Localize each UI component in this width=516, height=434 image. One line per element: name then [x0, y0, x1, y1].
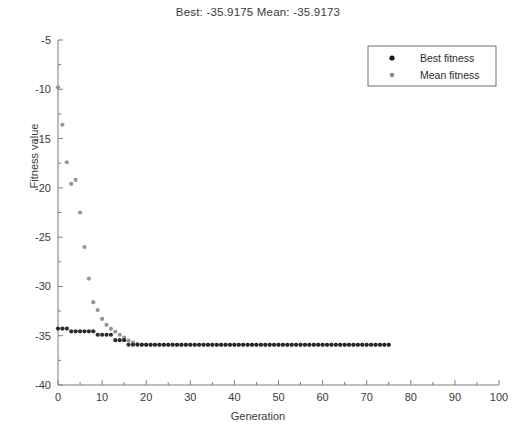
data-point	[91, 329, 95, 333]
data-point	[56, 327, 60, 331]
data-point	[87, 276, 91, 280]
data-points	[56, 85, 391, 347]
data-point	[96, 308, 100, 312]
data-point	[325, 343, 329, 347]
data-point	[65, 327, 69, 331]
data-point	[78, 329, 82, 333]
data-point	[272, 343, 276, 347]
data-point	[321, 343, 325, 347]
x-tick-label: 90	[449, 391, 461, 403]
data-point	[91, 300, 95, 304]
data-point	[113, 338, 117, 342]
data-point	[82, 245, 86, 249]
legend[interactable]: Best fitnessMean fitness	[368, 46, 496, 86]
data-point	[65, 160, 69, 164]
data-point	[74, 178, 78, 182]
data-point	[219, 343, 223, 347]
data-point	[118, 338, 122, 342]
data-point	[118, 333, 122, 337]
data-point	[96, 333, 100, 337]
data-point	[338, 343, 342, 347]
fitness-plot: Best: -35.9175 Mean: -35.9173 Fitness va…	[0, 0, 516, 434]
data-point	[157, 343, 161, 347]
y-tick-label: -25	[35, 231, 51, 243]
data-point	[365, 343, 369, 347]
data-point	[250, 343, 254, 347]
data-point	[206, 343, 210, 347]
data-point	[87, 329, 91, 333]
x-tick-label: 40	[228, 391, 240, 403]
series-best-fitness	[56, 327, 391, 347]
legend-marker-mean	[390, 73, 394, 77]
y-tick-label: -10	[35, 83, 51, 95]
data-point	[126, 343, 130, 347]
data-point	[210, 343, 214, 347]
data-point	[369, 343, 373, 347]
data-point	[246, 343, 250, 347]
data-point	[171, 343, 175, 347]
data-point	[312, 343, 316, 347]
data-point	[294, 343, 298, 347]
x-tick-label: 60	[316, 391, 328, 403]
data-point	[144, 343, 148, 347]
data-point	[104, 323, 108, 327]
series-mean-fitness	[56, 85, 391, 347]
data-point	[382, 343, 386, 347]
data-point	[56, 85, 60, 89]
data-point	[126, 339, 130, 343]
data-point	[298, 343, 302, 347]
data-point	[193, 343, 197, 347]
data-point	[223, 343, 227, 347]
data-point	[303, 343, 307, 347]
data-point	[228, 343, 232, 347]
data-point	[135, 343, 139, 347]
legend-marker-best	[389, 55, 394, 60]
data-point	[175, 343, 179, 347]
data-point	[356, 343, 360, 347]
data-point	[188, 343, 192, 347]
y-tick-label: -35	[35, 330, 51, 342]
data-point	[162, 343, 166, 347]
y-tick-label: -15	[35, 133, 51, 145]
data-point	[179, 343, 183, 347]
x-tick-label: 50	[272, 391, 284, 403]
data-point	[82, 329, 86, 333]
data-point	[140, 343, 144, 347]
y-tick-label: -20	[35, 182, 51, 194]
data-point	[153, 343, 157, 347]
data-point	[351, 343, 355, 347]
x-tick-label: 70	[361, 391, 373, 403]
y-tick-label: -30	[35, 280, 51, 292]
data-point	[166, 343, 170, 347]
data-point	[373, 343, 377, 347]
data-point	[360, 343, 364, 347]
data-point	[122, 338, 126, 342]
x-tick-label: 20	[140, 391, 152, 403]
x-tick-label: 10	[96, 391, 108, 403]
legend-label: Best fitness	[420, 52, 474, 64]
data-point	[100, 333, 104, 337]
data-point	[60, 327, 64, 331]
data-point	[316, 343, 320, 347]
data-point	[69, 182, 73, 186]
axes: -40-35-30-25-20-15-10-501020304050607080…	[35, 34, 508, 403]
data-point	[343, 343, 347, 347]
data-point	[184, 343, 188, 347]
data-point	[281, 343, 285, 347]
data-point	[276, 343, 280, 347]
data-point	[215, 343, 219, 347]
data-point	[329, 343, 333, 347]
x-tick-label: 80	[405, 391, 417, 403]
legend-label: Mean fitness	[420, 69, 480, 81]
y-tick-label: -5	[41, 34, 51, 46]
data-point	[378, 343, 382, 347]
data-point	[113, 330, 117, 334]
data-point	[334, 343, 338, 347]
data-point	[69, 329, 73, 333]
data-point	[109, 333, 113, 337]
data-point	[149, 343, 153, 347]
data-point	[241, 343, 245, 347]
x-tick-label: 30	[184, 391, 196, 403]
data-point	[259, 343, 263, 347]
data-point	[347, 343, 351, 347]
